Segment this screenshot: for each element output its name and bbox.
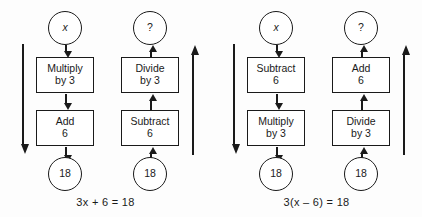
connector-start-to-step1 [276,45,278,51]
rail-arrowhead-down-icon [232,144,240,154]
inverse-rail-left [192,55,194,155]
arrowhead-down-icon [64,103,72,110]
diagram-left: x Multiply by 3 Add 6 18 ? Divide by 3 [0,0,211,217]
inverse-rail-right [403,55,405,155]
inverse-end-node-unknown: ? [344,11,378,45]
diagram-right: x Subtract 6 Multiply by 3 18 ? Add 6 [211,0,422,217]
inverse-start-node-18: 18 [344,157,378,191]
forward-step-2: Add 6 [36,110,94,146]
arrowhead-up-icon [149,147,157,154]
rail-arrowhead-up-icon [191,45,199,55]
connector-invstep2-to-invstep1 [361,101,363,110]
connector-step1-to-step2 [65,94,67,103]
step-label-line2: 6 [273,75,279,87]
connector-invstep2-to-invstep1 [150,101,152,110]
step-label-line2: by 3 [266,128,286,140]
connector-step1-to-step2 [276,94,278,103]
step-label-line2: 6 [62,128,68,140]
inverse-step-2: Divide by 3 [332,110,390,146]
flow-diagram-figure: x Multiply by 3 Add 6 18 ? Divide by 3 [0,0,422,217]
forward-step-1: Subtract 6 [247,57,305,93]
inverse-start-node-18: 18 [133,157,167,191]
arrowhead-down-icon [275,103,283,110]
rail-arrowhead-down-icon [21,144,29,154]
connector-start-to-step1 [65,45,67,51]
start-node-x: x [259,11,293,45]
start-node-x: x [48,11,82,45]
step-label-line2: 6 [147,128,153,140]
forward-step-2: Multiply by 3 [247,110,305,146]
inverse-step-2: Subtract 6 [121,110,179,146]
forward-rail-right [233,44,235,144]
step-label-line2: by 3 [351,128,371,140]
arrowhead-up-icon [360,45,368,52]
forward-step-1: Multiply by 3 [36,57,94,93]
step-label-line2: by 3 [140,75,160,87]
caption-equation-left: 3x + 6 = 18 [0,196,211,208]
connector-step2-to-end [65,147,67,155]
end-node-result: 18 [259,157,293,191]
end-node-result: 18 [48,157,82,191]
arrowhead-up-icon [360,147,368,154]
inverse-step-1: Add 6 [332,57,390,93]
arrowhead-up-icon [360,94,368,101]
step-label-line2: 6 [358,75,364,87]
inverse-step-1: Divide by 3 [121,57,179,93]
arrowhead-up-icon [149,94,157,101]
caption-equation-right: 3(x – 6) = 18 [211,196,422,208]
arrowhead-up-icon [149,45,157,52]
step-label-line2: by 3 [55,75,75,87]
connector-step2-to-end [276,147,278,155]
forward-rail-left [22,44,24,144]
inverse-end-node-unknown: ? [133,11,167,45]
rail-arrowhead-up-icon [402,45,410,55]
